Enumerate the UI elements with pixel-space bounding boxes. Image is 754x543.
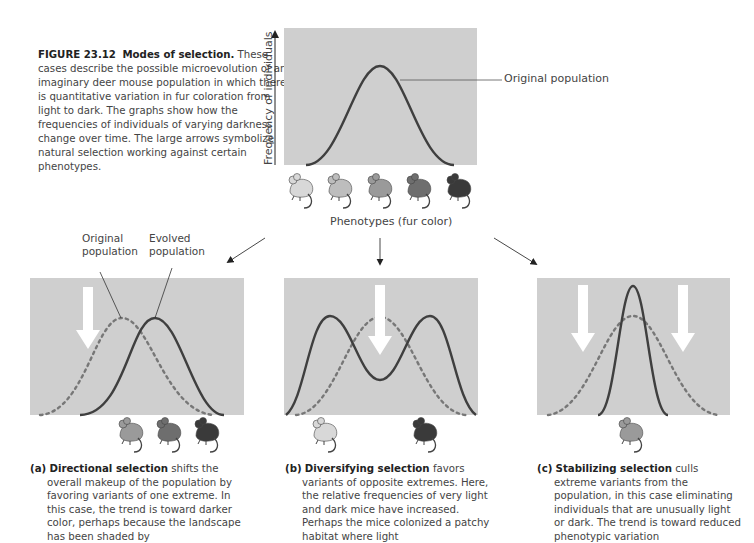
panel-b-description: (b) Diversifying selection favors varian…: [285, 462, 500, 543]
panel-a-description: (a) Directional selection shifts the ove…: [30, 462, 252, 543]
mouse-icons-c: [619, 418, 643, 453]
top-chart-panel: [284, 28, 477, 165]
panel-a-original-label: Original population: [82, 232, 138, 258]
panel-c-description: (c) Stabilizing selection culls extreme …: [537, 462, 742, 543]
panel-a-chart: [30, 278, 244, 415]
panel-c-chart: [537, 278, 730, 415]
mouse-icons-a: [119, 418, 219, 453]
mouse-icons-b: [313, 418, 437, 453]
panel-a-evolved-label: Evolved population: [149, 232, 205, 258]
y-axis-label: Frequency of individuals: [262, 31, 275, 165]
x-axis-label: Phenotypes (fur color): [330, 215, 452, 228]
mouse-icons-top: [289, 174, 471, 209]
original-population-label: Original population: [504, 72, 609, 85]
